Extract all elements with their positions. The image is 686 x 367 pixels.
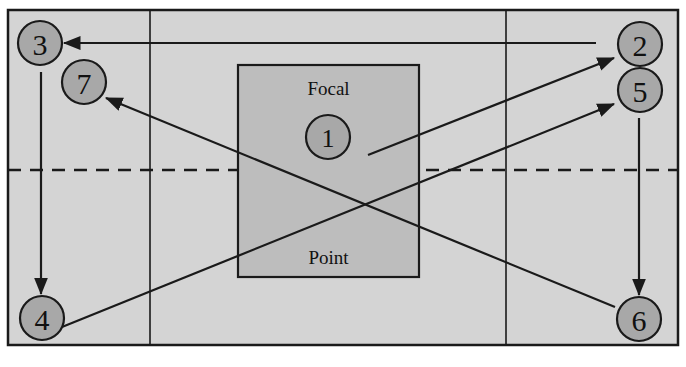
node-label-6: 6 bbox=[632, 304, 647, 337]
focal-box-label-top: Focal bbox=[307, 78, 349, 99]
diagram-canvas: Focal Point 1 2 3 4 bbox=[0, 0, 686, 367]
node-4[interactable]: 4 bbox=[20, 296, 64, 340]
node-3[interactable]: 3 bbox=[18, 21, 62, 65]
node-label-7: 7 bbox=[77, 67, 92, 100]
diagram-root: Focal Point 1 2 3 4 bbox=[0, 0, 686, 367]
node-label-2: 2 bbox=[633, 29, 648, 62]
node-7[interactable]: 7 bbox=[62, 60, 106, 104]
node-6[interactable]: 6 bbox=[617, 297, 661, 341]
node-label-3: 3 bbox=[33, 28, 48, 61]
focal-box-label-bottom: Point bbox=[308, 247, 349, 268]
node-5[interactable]: 5 bbox=[618, 68, 662, 112]
node-label-4: 4 bbox=[35, 303, 50, 336]
node-1[interactable]: 1 bbox=[306, 115, 350, 159]
node-2[interactable]: 2 bbox=[618, 22, 662, 66]
node-label-5: 5 bbox=[633, 75, 648, 108]
node-label-1: 1 bbox=[322, 124, 335, 153]
